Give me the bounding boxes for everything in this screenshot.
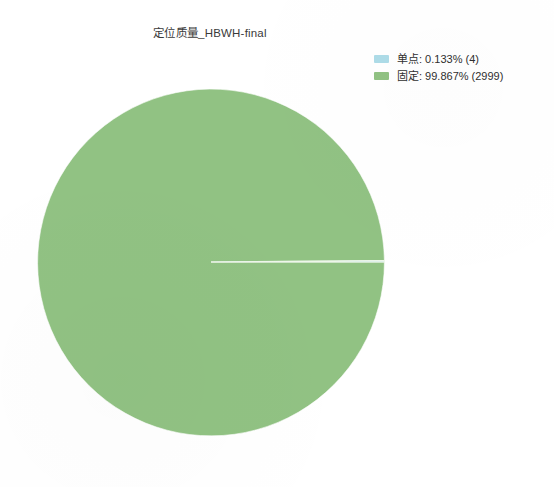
legend-swatch-fixed (374, 72, 389, 80)
legend-item-fixed[interactable]: 固定: 99.867% (2999) (374, 68, 550, 84)
pie-chart-figure: 定位质量_HBWH-final 单点: 0.133% (4) 固定: 99.86… (0, 0, 554, 487)
legend-swatch-single-point (374, 55, 389, 63)
legend-label-fixed: 固定: 99.867% (2999) (397, 70, 503, 83)
pie-svg (37, 88, 385, 436)
chart-legend: 单点: 0.133% (4) 固定: 99.867% (2999) (374, 51, 550, 85)
chart-title: 定位质量_HBWH-final (0, 26, 420, 40)
legend-item-single-point[interactable]: 单点: 0.133% (4) (374, 51, 550, 67)
pie-plot-area (37, 88, 385, 436)
legend-label-single-point: 单点: 0.133% (4) (397, 53, 479, 66)
